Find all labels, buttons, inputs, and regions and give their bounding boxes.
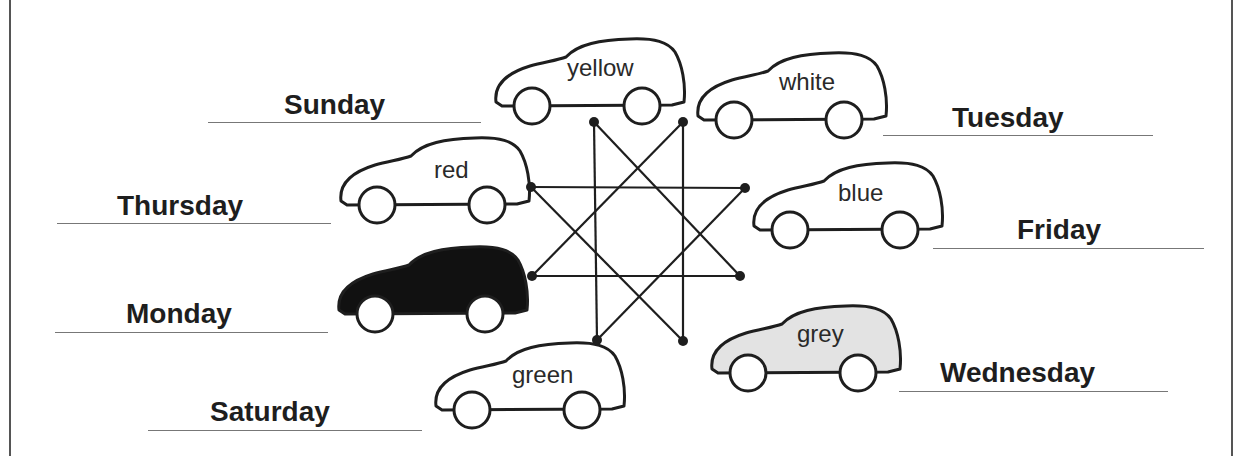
day-label-saturday: Saturday [210, 398, 330, 426]
connecting-line [531, 187, 745, 188]
car-white [692, 50, 892, 142]
car-grey [706, 303, 906, 395]
car-blue [748, 160, 948, 252]
answer-line-saturday [148, 430, 422, 431]
answer-line-thursday [57, 223, 331, 224]
car-icon [490, 36, 690, 128]
day-label-sunday: Sunday [284, 91, 385, 119]
connection-dot [678, 336, 688, 346]
answer-line-monday [55, 332, 328, 333]
connecting-line [531, 187, 683, 341]
car-icon [748, 160, 948, 252]
connection-dot [735, 271, 745, 281]
answer-line-friday [933, 248, 1204, 249]
car-color-label: green [512, 363, 573, 387]
left-border [9, 0, 11, 456]
car-color-label: grey [797, 322, 844, 346]
car-color-label: blue [838, 181, 883, 205]
car-yellow [490, 36, 690, 128]
connecting-line [594, 122, 597, 340]
car-color-label: red [434, 158, 469, 182]
car-color-label: white [779, 70, 835, 94]
right-border [1231, 0, 1233, 456]
answer-line-sunday [208, 122, 481, 123]
answer-line-tuesday [883, 135, 1153, 136]
day-label-friday: Friday [1017, 216, 1101, 244]
day-label-tuesday: Tuesday [952, 104, 1064, 132]
car-color-label: yellow [567, 56, 634, 80]
connecting-line [594, 122, 740, 276]
day-label-wednesday: Wednesday [940, 359, 1095, 387]
car-icon [692, 50, 892, 142]
day-label-monday: Monday [126, 300, 232, 328]
connecting-line [532, 122, 683, 276]
day-label-thursday: Thursday [117, 192, 243, 220]
car-icon [333, 244, 533, 336]
answer-line-wednesday [899, 391, 1168, 392]
car-icon [706, 303, 906, 395]
car-black [333, 244, 533, 336]
